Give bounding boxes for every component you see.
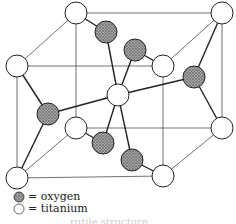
legend-titanium-swatch bbox=[14, 204, 24, 214]
figure-caption: rutile structure bbox=[70, 216, 148, 224]
legend-oxygen-swatch bbox=[14, 192, 24, 202]
legend-titanium-label: = titanium bbox=[28, 203, 88, 215]
